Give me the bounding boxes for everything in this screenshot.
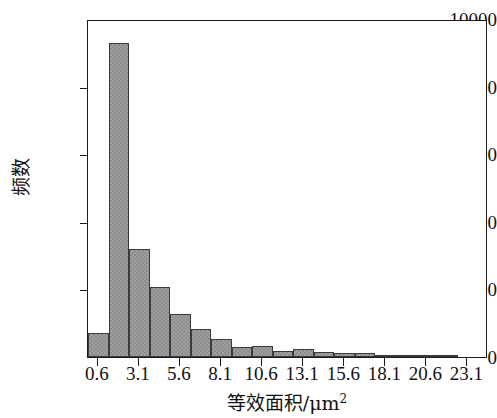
y-axis-title: 频数 [6, 142, 33, 212]
histogram-bar [273, 351, 294, 357]
plot-area [87, 20, 487, 358]
x-axis-title-exponent: 2 [340, 392, 348, 406]
histogram-bar [375, 355, 396, 357]
bar-series [88, 21, 486, 357]
histogram-bar [232, 347, 253, 357]
histogram-bar [396, 355, 417, 357]
x-axis-title: 等效面积/μm2 [87, 388, 487, 415]
histogram-bar [355, 353, 376, 357]
histogram-bar [150, 287, 171, 357]
histogram-bar [109, 43, 130, 357]
histogram-bar [88, 333, 109, 357]
histogram-bar [211, 339, 232, 357]
x-axis-tick-label: 23.1 [436, 364, 496, 384]
histogram-bar [314, 352, 335, 357]
histogram-bar [129, 249, 150, 357]
histogram-bar [191, 329, 212, 357]
histogram-bar [334, 353, 355, 357]
histogram-bar [417, 355, 438, 357]
x-axis-title-text: 等效面积/μm [227, 392, 340, 414]
histogram-figure: 频数 等效面积/μm2 0200040006000800010000 0.63.… [0, 0, 497, 418]
histogram-bar [170, 314, 191, 357]
histogram-bar [437, 355, 458, 357]
histogram-bar [252, 346, 273, 357]
histogram-bar [293, 349, 314, 357]
